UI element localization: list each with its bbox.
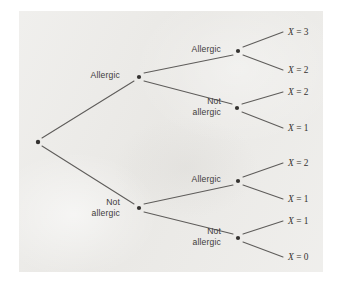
tree-edge-n-AA-to-leaf-2 xyxy=(243,55,283,70)
branch-label-n-A: Allergic xyxy=(91,70,121,80)
branch-label-line: allergic xyxy=(92,208,121,218)
outcome-variable: X xyxy=(287,123,295,133)
tree-node-n-AN xyxy=(235,106,239,110)
outcome-variable: X xyxy=(287,252,295,262)
outcome-label-leaf-6: X=1 xyxy=(287,194,309,204)
tree-node-n-A xyxy=(137,75,141,79)
branch-label-line: Allergic xyxy=(91,70,121,80)
outcome-relation: = xyxy=(296,252,302,262)
branch-label-line: Allergic xyxy=(192,174,222,184)
outcome-value: 1 xyxy=(304,216,309,226)
probability-tree-diagram: AllergicNotallergicAllergicNotallergicAl… xyxy=(0,0,339,289)
tree-edge-n-NA-to-leaf-6 xyxy=(243,185,283,199)
outcome-relation: = xyxy=(296,27,302,37)
tree-edges-group xyxy=(42,32,283,257)
outcome-variable: X xyxy=(287,216,295,226)
outcome-label-leaf-8: X=0 xyxy=(287,252,309,262)
outcome-relation: = xyxy=(296,123,302,133)
tree-node-n-AA xyxy=(236,49,240,53)
branch-label-n-AA: Allergic xyxy=(192,44,222,54)
tree-edge-n-NA-to-leaf-5 xyxy=(243,163,283,177)
outcome-label-leaf-3: X=2 xyxy=(287,87,309,97)
outcome-label-leaf-5: X=2 xyxy=(287,158,309,168)
outcome-label-leaf-7: X=1 xyxy=(287,216,309,226)
outcome-label-leaf-1: X=3 xyxy=(287,27,309,37)
tree-edge-n-A-to-n-AA xyxy=(144,55,233,73)
figure-root: AllergicNotallergicAllergicNotallergicAl… xyxy=(0,0,339,289)
tree-edge-n-AA-to-leaf-1 xyxy=(243,32,283,47)
branch-label-n-NA: Allergic xyxy=(192,174,222,184)
tree-edge-n-N-to-n-NA xyxy=(144,185,233,204)
branch-label-n-N: Notallergic xyxy=(92,197,121,218)
tree-node-n-NN xyxy=(236,236,240,240)
tree-edge-n-NN-to-leaf-8 xyxy=(243,242,283,257)
tree-nodes-group xyxy=(36,49,240,240)
outcome-value: 2 xyxy=(304,87,309,97)
tree-node-n-N xyxy=(137,206,141,210)
tree-edge-n-NN-to-leaf-7 xyxy=(243,221,283,234)
outcome-value: 3 xyxy=(304,27,309,37)
tree-node-n-NA xyxy=(236,179,240,183)
tree-edge-root-to-n-A xyxy=(42,81,134,138)
outcome-variable: X xyxy=(287,158,295,168)
outcome-variable: X xyxy=(287,194,295,204)
outcome-value: 1 xyxy=(304,123,309,133)
branch-label-line: Not xyxy=(106,197,120,207)
tree-node-root xyxy=(36,140,40,144)
outcome-labels-group: X=3X=2X=2X=1X=2X=1X=1X=0 xyxy=(287,27,309,262)
outcome-label-leaf-4: X=1 xyxy=(287,123,309,133)
branch-label-n-NN: Notallergic xyxy=(193,226,222,247)
outcome-label-leaf-2: X=2 xyxy=(287,65,309,75)
outcome-variable: X xyxy=(287,87,295,97)
outcome-relation: = xyxy=(296,194,302,204)
branch-label-line: Not xyxy=(207,96,221,106)
outcome-value: 0 xyxy=(304,252,309,262)
outcome-value: 2 xyxy=(304,65,309,75)
outcome-value: 1 xyxy=(304,194,309,204)
outcome-value: 2 xyxy=(304,158,309,168)
branch-label-line: Not xyxy=(207,226,221,236)
tree-edge-root-to-n-N xyxy=(42,146,134,204)
outcome-relation: = xyxy=(296,65,302,75)
branch-label-line: Allergic xyxy=(192,44,222,54)
branch-label-line: allergic xyxy=(193,107,222,117)
branch-label-n-AN: Notallergic xyxy=(193,96,222,117)
branch-labels-group: AllergicNotallergicAllergicNotallergicAl… xyxy=(91,44,222,247)
outcome-relation: = xyxy=(296,158,302,168)
branch-label-line: allergic xyxy=(193,237,222,247)
outcome-variable: X xyxy=(287,27,295,37)
outcome-relation: = xyxy=(296,87,302,97)
tree-edge-n-AN-to-leaf-4 xyxy=(242,112,283,128)
tree-edge-n-AN-to-leaf-3 xyxy=(242,92,283,104)
outcome-relation: = xyxy=(296,216,302,226)
outcome-variable: X xyxy=(287,65,295,75)
